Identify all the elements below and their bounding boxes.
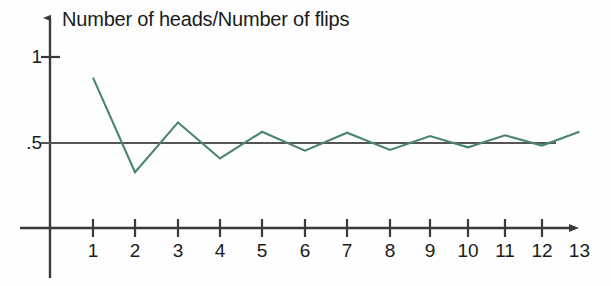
x-axis-tick-label-1: 1 — [78, 240, 108, 262]
x-axis-tick-label-2: 2 — [120, 240, 150, 262]
x-axis-tick-label-4: 4 — [205, 240, 235, 262]
chart-figure: Number of heads/Number of flips 1 .5 — [0, 0, 611, 286]
x-axis-tick-label-3: 3 — [163, 240, 193, 262]
x-axis-tick-label-8: 8 — [375, 240, 405, 262]
x-axis-tick-label-6: 6 — [290, 240, 320, 262]
x-axis-tick-label-12: 12 — [527, 240, 557, 262]
x-axis-tick-label-11: 11 — [490, 240, 520, 262]
x-axis-tick-label-7: 7 — [332, 240, 362, 262]
data-series-line — [93, 78, 579, 173]
x-axis-tick-label-10: 10 — [453, 240, 483, 262]
x-axis-tick-label-13: 13 — [564, 240, 594, 262]
x-axis-tick-label-9: 9 — [415, 240, 445, 262]
x-axis-tick-label-5: 5 — [247, 240, 277, 262]
